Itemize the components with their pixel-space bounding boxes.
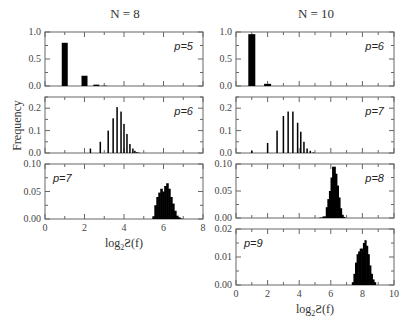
bar xyxy=(120,112,122,153)
y-tick-label: 0.2 xyxy=(29,102,42,113)
bar xyxy=(374,282,376,285)
y-tick-label: 0.05 xyxy=(215,185,233,196)
x-tick-label: 4 xyxy=(122,222,127,233)
panel-p6-n10: 0.00.51.0p=6 xyxy=(220,26,395,91)
bar xyxy=(126,134,128,153)
y-tick-label: 0.0 xyxy=(220,147,233,158)
bar xyxy=(342,217,346,218)
bar xyxy=(134,151,136,153)
bar xyxy=(264,84,271,86)
bar xyxy=(180,218,183,219)
x-tick-label: 2 xyxy=(265,288,270,299)
x-tick-label: 8 xyxy=(360,288,365,299)
bar xyxy=(100,142,102,153)
bar xyxy=(251,151,253,153)
x-tick-label: 0 xyxy=(234,288,239,299)
y-tick-label: 0.10 xyxy=(215,158,233,169)
bar xyxy=(310,151,312,153)
x-tick-label: 2 xyxy=(82,222,87,233)
y-tick-label: 0.00 xyxy=(215,212,233,223)
x-tick-label: 6 xyxy=(161,222,166,233)
panel-p7-n8: 0.000.050.1002468p=7 xyxy=(24,158,206,233)
bar xyxy=(93,85,99,86)
y-tick-label: 0.05 xyxy=(24,186,42,197)
bar xyxy=(136,152,138,153)
panel-p7-n10: 0.00.10.2p=7 xyxy=(220,97,395,158)
panel-p-label: p=6 xyxy=(364,40,385,52)
bar xyxy=(82,76,88,86)
x-tick-label: 6 xyxy=(328,288,333,299)
x-tick-label: 4 xyxy=(297,288,302,299)
panel-p-label: p=7 xyxy=(52,172,73,184)
y-tick-label: 0.01 xyxy=(215,251,233,262)
bar xyxy=(62,43,68,86)
y-tick-label: 1.0 xyxy=(220,26,233,37)
panel-p-label: p=6 xyxy=(173,105,194,117)
y-tick-label: 0.5 xyxy=(29,53,42,64)
y-tick-label: 0.00 xyxy=(24,213,42,224)
y-tick-label: 0.1 xyxy=(29,125,42,136)
bar xyxy=(112,118,114,153)
figure-canvas: 0.00.51.0p=50.00.10.2p=60.000.050.100246… xyxy=(0,0,409,324)
bar xyxy=(287,112,289,153)
bar xyxy=(129,144,131,153)
y-tick-label: 0.02 xyxy=(215,223,233,234)
bar xyxy=(123,124,125,153)
y-tick-label: 0.5 xyxy=(220,53,233,64)
bar xyxy=(248,34,255,86)
bar xyxy=(276,131,278,153)
panel-p8-n10: 0.000.050.10p=8 xyxy=(215,158,395,223)
panel-p9-n10: 0.000.010.020246810p=9 xyxy=(215,223,400,299)
y-tick-label: 0.2 xyxy=(220,102,233,113)
y-tick-label: 0.1 xyxy=(220,125,233,136)
panel-p-label: p=8 xyxy=(364,172,385,184)
panel-p-label: p=7 xyxy=(364,105,385,117)
y-tick-label: 0.00 xyxy=(215,279,233,290)
bar xyxy=(90,149,92,153)
y-tick-label: 1.0 xyxy=(29,26,42,37)
x-tick-label: 0 xyxy=(43,222,48,233)
y-tick-label: 0.0 xyxy=(29,80,42,91)
panel-p5-n8: 0.00.51.0p=5 xyxy=(29,26,204,91)
bar xyxy=(292,112,294,153)
bar xyxy=(300,132,302,153)
bar xyxy=(132,149,134,153)
bar xyxy=(116,107,118,153)
x-tick-label: 8 xyxy=(201,222,206,233)
bar xyxy=(313,152,315,153)
bar xyxy=(267,143,269,153)
bar xyxy=(306,149,308,153)
bar xyxy=(297,123,299,153)
panel-p6-n8: 0.00.10.2p=6 xyxy=(29,97,204,158)
y-tick-label: 0.10 xyxy=(24,158,42,169)
bar xyxy=(283,116,285,153)
x-tick-label: 10 xyxy=(389,288,399,299)
panel-p-label: p=9 xyxy=(243,237,263,249)
bar xyxy=(107,131,109,153)
bar xyxy=(303,142,305,153)
y-tick-label: 0.0 xyxy=(29,147,42,158)
y-tick-label: 0.0 xyxy=(220,80,233,91)
panel-p-label: p=5 xyxy=(173,40,194,52)
